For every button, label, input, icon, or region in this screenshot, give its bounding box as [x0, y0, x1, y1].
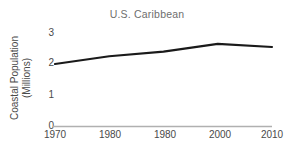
data-series-line: [55, 44, 272, 64]
plot-area: [0, 0, 294, 158]
chart-container: U.S. Caribbean Coastal Population (Milli…: [0, 0, 294, 158]
